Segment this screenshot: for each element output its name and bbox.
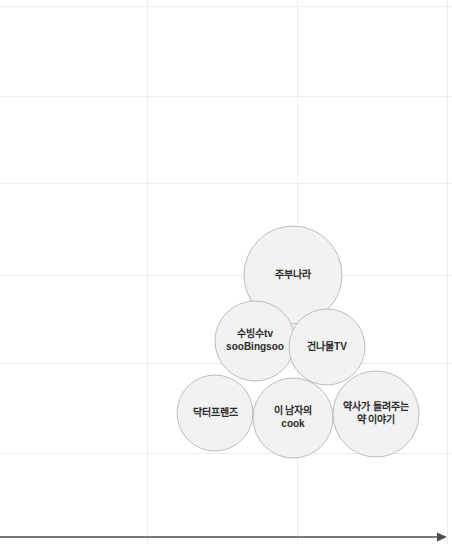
bubble-chart-canvas: 주부나라수빙수tvsooBingsoo건나물TV닥터프렌즈이 남자의cook약사… [0, 0, 452, 544]
bubble-label-jubunara-line-0: 주부나라 [275, 268, 312, 280]
grid-layer [0, 0, 452, 544]
bubble-label-soobingsoo-line-0: 수빙수tv [237, 327, 273, 339]
bubble-soobingsoo[interactable]: 수빙수tvsooBingsoo [215, 301, 295, 381]
bubble-label-soobingsoo-line-1: sooBingsoo [226, 341, 284, 352]
bubble-label-pharmacist-medicine-story-line-1: 약 이야기 [357, 413, 396, 425]
bubble-label-gunnamul-tv-line-0: 건나물TV [307, 340, 347, 352]
bubble-chart-svg: 주부나라수빙수tvsooBingsoo건나물TV닥터프렌즈이 남자의cook약사… [0, 0, 452, 544]
x-axis [0, 533, 447, 542]
bubble-layer: 주부나라수빙수tvsooBingsoo건나물TV닥터프렌즈이 남자의cook약사… [177, 226, 419, 458]
x-axis-arrowhead-icon [437, 533, 447, 542]
bubble-label-this-mans-cook-line-1: cook [281, 418, 305, 429]
bubble-gunnamul-tv[interactable]: 건나물TV [289, 309, 365, 385]
bubble-label-doctor-friends-line-0: 닥터프렌즈 [193, 406, 238, 418]
bubble-label-pharmacist-medicine-story-line-0: 약사가 들려주는 [343, 400, 409, 412]
bubble-doctor-friends[interactable]: 닥터프렌즈 [177, 375, 253, 451]
bubble-label-this-mans-cook-line-0: 이 남자의 [274, 404, 313, 416]
bubble-pharmacist-medicine-story[interactable]: 약사가 들려주는약 이야기 [333, 371, 419, 457]
bubble-this-mans-cook[interactable]: 이 남자의cook [253, 378, 333, 458]
